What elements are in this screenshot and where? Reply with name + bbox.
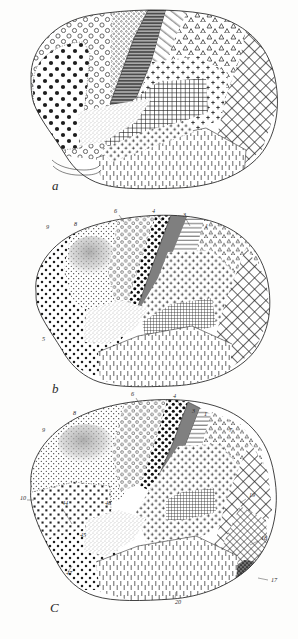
panel-c-regions: [25, 392, 285, 604]
label-c-20: 20: [175, 598, 182, 605]
label-c-45: 45: [80, 531, 86, 538]
label-c-4: 4: [173, 392, 176, 399]
label-c-9: 9: [42, 426, 45, 433]
label-b-9: 9: [46, 223, 49, 230]
panel-c: 8 9 6 4 3 1 7 19 18 17 20 10 44 45 47 46: [20, 390, 285, 615]
label-c-6: 6: [131, 390, 135, 397]
panel-b-regions: [30, 205, 280, 395]
label-c-17: 17: [271, 576, 278, 583]
label-b-1: 1: [205, 222, 208, 229]
panel-a: a: [25, 5, 285, 200]
label-c-46: 46: [105, 499, 112, 506]
panel-b-letter: b: [52, 381, 59, 396]
label-c-8: 8: [73, 409, 77, 416]
label-c-18: 18: [261, 534, 268, 541]
panel-c-letter: C: [50, 600, 59, 615]
label-c-19: 19: [249, 491, 255, 498]
brain-maps-figure: a: [0, 0, 298, 639]
panel-b: 9 8 6 4 3 1 5 b: [30, 205, 280, 396]
label-b-4: 4: [152, 207, 155, 214]
label-b-8: 8: [74, 220, 78, 227]
label-c-44: 44: [62, 499, 68, 506]
label-b-6: 6: [114, 207, 118, 214]
label-b-3: 3: [182, 211, 186, 218]
label-c-10: 10: [20, 494, 27, 501]
region-c-area9-gray-wash: [58, 424, 114, 464]
figure-root: a: [0, 0, 298, 639]
panel-a-regions: [25, 5, 285, 200]
label-b-5: 5: [42, 335, 45, 342]
panel-a-letter: a: [52, 178, 59, 193]
label-c-3: 3: [191, 407, 195, 414]
leader-c-17: [258, 578, 268, 580]
label-c-1: 1: [204, 410, 207, 417]
